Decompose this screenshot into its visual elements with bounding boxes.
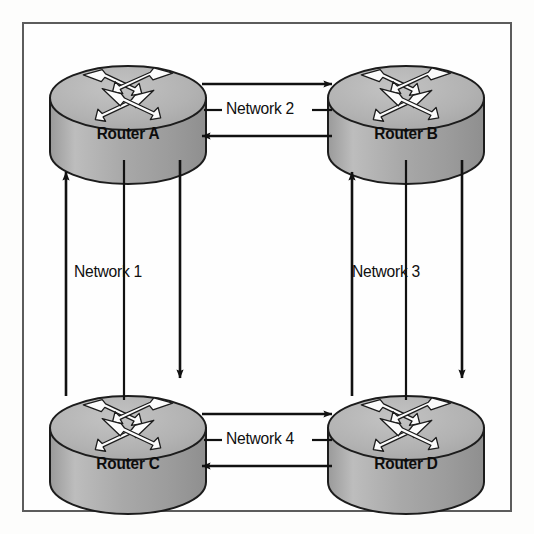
network-2-label: Network 2 [226,99,294,119]
router-c-label: Router C [82,454,175,473]
router-d-label: Router D [360,454,453,473]
diagram-canvas: Router A Router B Router C Router D Netw… [0,0,534,534]
network-3-label: Network 3 [352,262,420,282]
network-4-label: Network 4 [226,429,294,449]
router-a-label: Router A [82,124,175,143]
network-1-label: Network 1 [74,262,142,282]
router-b-label: Router B [360,124,453,143]
